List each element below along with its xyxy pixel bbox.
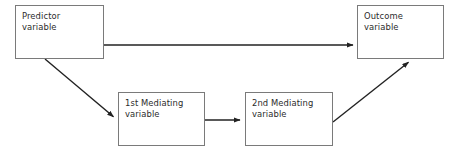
arrow-mediator2-to-outcome bbox=[333, 62, 409, 122]
node-predictor-variable-label: Predictor variable bbox=[22, 11, 60, 33]
node-2nd-mediating-variable: 2nd Mediating variable bbox=[245, 92, 333, 146]
node-1st-mediating-variable-label: 1st Mediating variable bbox=[125, 98, 183, 120]
node-1st-mediating-variable: 1st Mediating variable bbox=[118, 92, 205, 146]
node-outcome-variable-label: Outcome variable bbox=[364, 11, 403, 33]
node-2nd-mediating-variable-label: 2nd Mediating variable bbox=[252, 98, 313, 120]
arrow-predictor-to-mediator1 bbox=[45, 59, 114, 117]
node-outcome-variable: Outcome variable bbox=[357, 5, 444, 59]
node-predictor-variable: Predictor variable bbox=[15, 5, 104, 59]
mediation-diagram: Predictor variable 1st Mediating variabl… bbox=[0, 0, 459, 158]
